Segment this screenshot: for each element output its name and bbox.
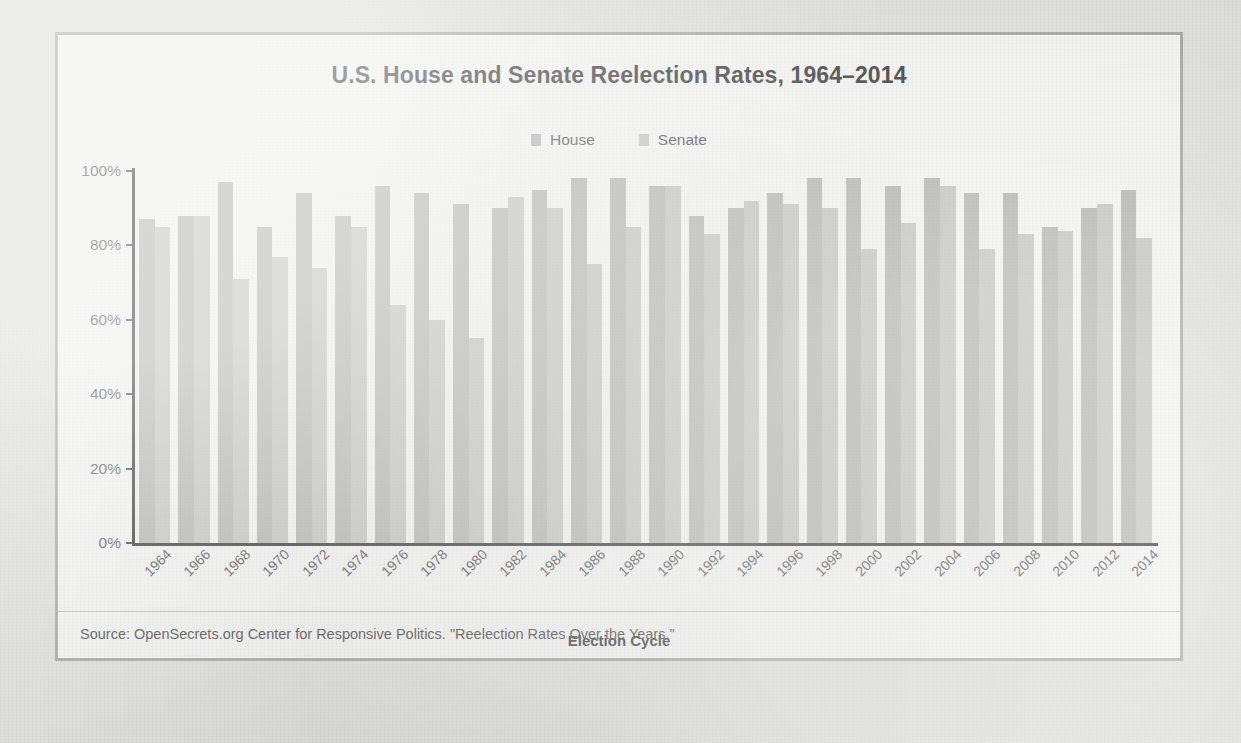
x-axis-label-cell: 1980 [448,551,488,631]
legend-label-house: House [550,131,595,149]
x-axis-tick-label: 2008 [1010,546,1043,579]
bar-senate-1978[interactable] [429,320,445,543]
bar-senate-1976[interactable] [390,305,406,543]
x-axis-label-cell: 1998 [804,551,844,631]
bar-group [174,171,213,543]
bar-senate-1966[interactable] [194,216,210,543]
legend-item-senate[interactable]: Senate [639,131,707,149]
bar-house-1972[interactable] [296,193,312,543]
bar-senate-1990[interactable] [665,186,681,543]
x-axis-label-cell: 2002 [883,551,923,631]
bar-senate-1986[interactable] [587,264,603,543]
bar-house-1970[interactable] [257,227,273,543]
x-axis-label-cell: 1968 [211,551,251,631]
y-axis-tick-label: 40% [90,385,121,403]
x-axis-label-cell: 1972 [290,551,330,631]
bar-house-1984[interactable] [532,190,548,543]
bar-senate-1982[interactable] [508,197,524,543]
bar-house-1988[interactable] [610,178,626,543]
bar-house-1996[interactable] [767,193,783,543]
bar-senate-1988[interactable] [626,227,642,543]
bar-house-1974[interactable] [335,216,351,543]
x-axis-tick-label: 1986 [575,546,608,579]
bar-senate-1984[interactable] [547,208,563,543]
bar-group [1117,171,1156,543]
bar-senate-1994[interactable] [744,201,760,543]
y-axis-tick-mark [126,319,132,321]
bar-group [488,171,527,543]
x-axis-tick-label: 2006 [970,546,1003,579]
bar-senate-1964[interactable] [155,227,171,543]
bar-house-1980[interactable] [453,204,469,543]
x-axis-label-cell: 2008 [1001,551,1041,631]
x-axis-tick-label: 1990 [654,546,687,579]
bar-senate-2012[interactable] [1097,204,1113,543]
bar-senate-1996[interactable] [783,204,799,543]
bar-senate-2014[interactable] [1136,238,1152,543]
bar-house-1964[interactable] [139,219,155,543]
bar-senate-2006[interactable] [979,249,995,543]
bar-house-1982[interactable] [492,208,508,543]
x-axis-tick-label: 1978 [417,546,450,579]
bar-senate-1980[interactable] [469,338,485,543]
x-axis-tick-label: 1976 [378,546,411,579]
x-axis-label-cell: 1978 [409,551,449,631]
bar-senate-1970[interactable] [272,257,288,543]
x-axis-tick-label: 1984 [536,546,569,579]
x-axis-label-cell: 1988 [606,551,646,631]
x-axis-tick-label: 1992 [694,546,727,579]
bar-house-1966[interactable] [178,216,194,543]
x-axis-label-cell: 2004 [922,551,962,631]
y-axis-tick-label: 100% [81,162,121,180]
x-axis-tick-label: 2014 [1128,546,1161,579]
bar-house-1990[interactable] [649,186,665,543]
bar-senate-1974[interactable] [351,227,367,543]
bar-house-1968[interactable] [218,182,234,543]
bar-house-2008[interactable] [1003,193,1019,543]
x-axis-tick-label: 1982 [496,546,529,579]
bar-group [253,171,292,543]
bar-senate-2010[interactable] [1058,231,1074,543]
bar-house-1976[interactable] [375,186,391,543]
bar-house-1978[interactable] [414,193,430,543]
bar-house-2004[interactable] [924,178,940,543]
bar-house-2010[interactable] [1042,227,1058,543]
y-axis-tick-mark [126,244,132,246]
bar-group [214,171,253,543]
bar-house-1986[interactable] [571,178,587,543]
bar-senate-2008[interactable] [1018,234,1034,543]
bar-group [1077,171,1116,543]
x-axis-label-group: 1964196619681970197219741976197819801982… [132,551,1159,631]
bar-senate-1992[interactable] [704,234,720,543]
x-axis-label-cell: 2006 [962,551,1002,631]
y-axis-tick-mark [126,542,132,544]
bar-house-1992[interactable] [689,216,705,543]
bar-house-2000[interactable] [846,178,862,543]
x-axis-tick-label: 2012 [1089,546,1122,579]
bar-senate-1968[interactable] [233,279,249,543]
bar-group [1038,171,1077,543]
x-axis-label-cell: 1982 [488,551,528,631]
legend-label-senate: Senate [658,131,707,149]
bar-house-2002[interactable] [885,186,901,543]
bar-senate-1972[interactable] [312,268,328,543]
bar-senate-2002[interactable] [901,223,917,543]
bar-senate-2004[interactable] [940,186,956,543]
x-axis-label-cell: 1990 [646,551,686,631]
x-axis-label-cell: 1976 [369,551,409,631]
y-axis-tick-label: 0% [99,534,121,552]
bar-senate-2000[interactable] [861,249,877,543]
legend-item-house[interactable]: House [531,131,595,149]
bar-senate-1998[interactable] [822,208,838,543]
bar-house-2006[interactable] [964,193,980,543]
bar-house-2012[interactable] [1081,208,1097,543]
x-axis-tick-label: 1974 [338,546,371,579]
x-axis-tick-label: 1988 [615,546,648,579]
chart-legend: House Senate [58,131,1180,149]
bar-house-1994[interactable] [728,208,744,543]
plot-area: 0%20%40%60%80%100% [132,171,1156,543]
bar-group [960,171,999,543]
bar-house-2014[interactable] [1121,190,1137,543]
source-divider [58,611,1180,612]
bar-house-1998[interactable] [807,178,823,543]
